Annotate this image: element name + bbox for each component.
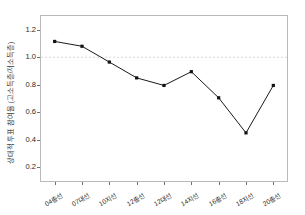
chart-figure: 상대적 투표 참여율 (고소득층/저소득층) 0.20.40.60.81.01.…: [0, 0, 305, 215]
data-point-marker: [108, 60, 111, 63]
x-axis-tick-mark: [273, 182, 274, 185]
x-axis-tick-mark: [55, 182, 56, 185]
x-axis-tick-mark: [246, 182, 247, 185]
line-chart-canvas: [41, 16, 287, 181]
data-point-marker: [217, 96, 220, 99]
data-line-group: [55, 41, 274, 132]
y-axis-tick-label: 0.8: [14, 81, 36, 89]
x-axis-tick-mark: [191, 182, 192, 185]
y-axis-tick-labels: 0.20.40.60.81.01.2: [14, 0, 36, 215]
data-point-marker: [53, 40, 56, 43]
x-axis-tick-label: 16총선: [202, 190, 228, 211]
y-axis-tick-label: 0.2: [14, 163, 36, 171]
x-axis-tick-label: 12대선: [147, 190, 173, 211]
x-axis-tick-mark: [109, 182, 110, 185]
x-axis-tick-mark: [219, 182, 220, 185]
data-line: [55, 41, 274, 132]
data-point-marker: [244, 131, 247, 134]
plot-area: [40, 15, 288, 182]
x-axis-tick-label: 18지선: [229, 190, 255, 211]
data-point-marker: [162, 84, 165, 87]
data-point-marker: [190, 70, 193, 73]
x-axis-tick-label: 10지선: [93, 190, 119, 211]
x-axis-tick-label: 07대선: [65, 190, 91, 211]
data-point-marker: [80, 45, 83, 48]
y-axis-tick-label: 1.0: [14, 53, 36, 61]
x-axis-tick-label: 14지선: [175, 190, 201, 211]
data-point-marker: [272, 84, 275, 87]
x-axis-tick-label: 20총선: [257, 190, 283, 211]
x-axis-tick-label: 12총선: [120, 190, 146, 211]
y-axis-tick-label: 0.6: [14, 108, 36, 116]
y-axis-tick-label: 1.2: [14, 26, 36, 34]
y-axis-tick-label: 0.4: [14, 136, 36, 144]
x-axis-tick-mark: [82, 182, 83, 185]
data-marker-group: [53, 40, 275, 135]
x-axis-tick-mark: [164, 182, 165, 185]
data-point-marker: [135, 76, 138, 79]
x-axis-tick-mark: [137, 182, 138, 185]
x-axis-tick-label: 04총선: [38, 190, 64, 211]
